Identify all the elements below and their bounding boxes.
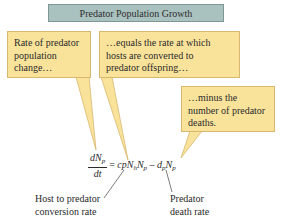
callout-line: predator offspring… — [106, 62, 233, 75]
label-line: conversion rate — [35, 205, 100, 218]
callout-line: change… — [14, 62, 84, 75]
fraction-numerator: dNp — [88, 152, 107, 168]
callout-line: Rate of predator — [14, 37, 84, 50]
diagram-title: Predator Population Growth — [48, 4, 224, 22]
callout-line: …equals the rate at which — [106, 37, 233, 50]
label-conversion-rate: Host to predator conversion rate — [35, 192, 100, 218]
label-line: Predator — [170, 192, 209, 205]
fraction-denominator: dt — [94, 168, 102, 180]
callout-line: population — [14, 50, 84, 63]
callout-line: …minus the — [188, 92, 268, 105]
derivative-fraction: dNp dt — [88, 152, 107, 180]
callout-deaths: …minus the number of predator deaths. — [181, 86, 275, 132]
callout-conversion: …equals the rate at which hosts are conv… — [99, 31, 240, 78]
equation-rhs: = cpNhNp – dpNp — [109, 159, 176, 174]
label-death-rate: Predator death rate — [170, 192, 209, 218]
predator-growth-equation: dNp dt = cpNhNp – dpNp — [88, 148, 176, 184]
callout-line: deaths. — [188, 117, 268, 130]
label-line: death rate — [170, 205, 209, 218]
callout-line: number of predator — [188, 105, 268, 118]
callout-rate-change: Rate of predator population change… — [7, 31, 91, 78]
callout-line: hosts are converted to — [106, 50, 233, 63]
label-line: Host to predator — [35, 192, 100, 205]
